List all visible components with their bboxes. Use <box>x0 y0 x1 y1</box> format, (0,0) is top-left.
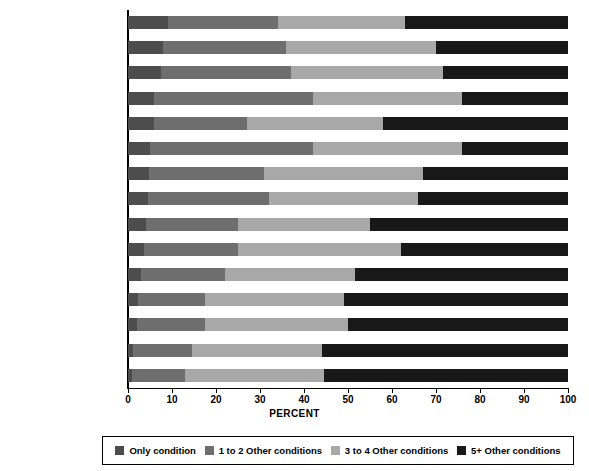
bar-segment <box>168 16 278 29</box>
legend-item[interactable]: 3 to 4 Other conditions <box>331 445 448 456</box>
bar-segment <box>128 142 150 155</box>
bar-segment <box>313 142 463 155</box>
chart-title <box>0 0 589 2</box>
bar-segment <box>238 243 401 256</box>
x-tick <box>392 388 393 393</box>
bar-segment <box>128 268 141 281</box>
x-tick-label: 100 <box>560 394 577 405</box>
bar-segment <box>383 117 568 130</box>
legend-swatch-icon <box>331 446 340 455</box>
bar-segment <box>132 369 186 382</box>
chart-row: Chronic kidney disease <box>128 312 568 337</box>
x-tick-label: 90 <box>518 394 529 405</box>
bar-segment <box>154 92 312 105</box>
legend-label: 3 to 4 Other conditions <box>345 445 448 456</box>
bar-segment <box>401 243 568 256</box>
x-tick-label: 70 <box>430 394 441 405</box>
x-tick <box>260 388 261 393</box>
bar-segment <box>205 318 348 331</box>
x-tick-label: 0 <box>125 394 131 405</box>
bar-segment <box>154 117 246 130</box>
bar-segment <box>163 41 286 54</box>
x-tick <box>216 388 217 393</box>
stacked-bar <box>128 268 568 281</box>
legend-item[interactable]: 1 to 2 Other conditions <box>205 445 322 456</box>
bar-segment <box>418 192 568 205</box>
legend-swatch-icon <box>205 446 214 455</box>
chart-row: Ischemic heart disease <box>128 237 568 262</box>
bar-segment <box>238 218 370 231</box>
legend-label: 1 to 2 Other conditions <box>219 445 322 456</box>
legend-item[interactable]: 5+ Other conditions <box>457 445 560 456</box>
bar-segment <box>405 16 568 29</box>
bar-segment <box>128 318 137 331</box>
bar-segment <box>269 192 419 205</box>
stacked-bar <box>128 218 568 231</box>
bar-segment <box>247 117 383 130</box>
bar-segment <box>150 142 313 155</box>
chart-row: Arthritis <box>128 60 568 85</box>
bar-segment <box>141 268 225 281</box>
bar-segment <box>443 66 568 79</box>
stacked-bar <box>128 369 568 382</box>
bar-segment <box>128 293 138 306</box>
stacked-bar <box>128 344 568 357</box>
chart-row: Diabetes <box>128 161 568 186</box>
stacked-bar-chart: DepressionCancerArthritisHigh blood pres… <box>0 0 589 471</box>
bar-segment <box>185 369 324 382</box>
stacked-bar <box>128 117 568 130</box>
x-tick <box>436 388 437 393</box>
bar-segment <box>128 243 144 256</box>
bar-segment <box>348 318 568 331</box>
x-tick-label: 50 <box>342 394 353 405</box>
bar-segment <box>192 344 322 357</box>
chart-row: High cholesterol <box>128 136 568 161</box>
bar-segment <box>322 344 568 357</box>
x-tick <box>524 388 525 393</box>
chart-row: Cancer <box>128 35 568 60</box>
bar-segment <box>128 117 154 130</box>
bar-segment <box>278 16 406 29</box>
stacked-bar <box>128 167 568 180</box>
bar-segment <box>286 41 436 54</box>
bar-segment <box>133 344 192 357</box>
bar-segment <box>149 167 265 180</box>
chart-row: Heart failure <box>128 363 568 388</box>
stacked-bar <box>128 16 568 29</box>
bar-segment <box>423 167 568 180</box>
stacked-bar <box>128 66 568 79</box>
bar-segment <box>462 92 568 105</box>
bar-segment <box>128 66 161 79</box>
bar-segment <box>128 167 149 180</box>
bar-segment <box>355 268 568 281</box>
x-tick-label: 40 <box>298 394 309 405</box>
bar-segment <box>324 369 568 382</box>
chart-row: Asthma <box>128 212 568 237</box>
plot-area: DepressionCancerArthritisHigh blood pres… <box>128 10 568 388</box>
stacked-bar <box>128 192 568 205</box>
bar-segment <box>128 92 154 105</box>
legend-item[interactable]: Only condition <box>115 445 196 456</box>
x-tick <box>480 388 481 393</box>
x-tick-label: 80 <box>474 394 485 405</box>
x-tick-label: 30 <box>254 394 265 405</box>
stacked-bar <box>128 243 568 256</box>
bar-segment <box>313 92 463 105</box>
bar-segment <box>344 293 568 306</box>
bar-segment <box>161 66 291 79</box>
bar-segment <box>225 268 355 281</box>
bar-segment <box>144 243 238 256</box>
x-tick <box>568 388 569 393</box>
bar-segment <box>146 218 238 231</box>
x-tick <box>348 388 349 393</box>
x-axis-title: PERCENT <box>0 408 589 419</box>
chart-row: Atrial fibrillation <box>128 287 568 312</box>
bar-segment <box>264 167 422 180</box>
x-tick-label: 10 <box>166 394 177 405</box>
chart-legend: Only condition1 to 2 Other conditions3 t… <box>102 436 574 465</box>
legend-label: 5+ Other conditions <box>471 445 560 456</box>
bar-segment <box>291 66 443 79</box>
stacked-bar <box>128 293 568 306</box>
x-tick-label: 60 <box>386 394 397 405</box>
bar-segment <box>128 218 146 231</box>
